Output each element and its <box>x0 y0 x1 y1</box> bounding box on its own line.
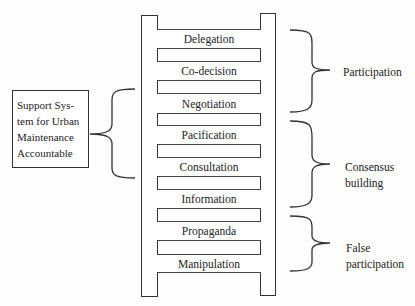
support-system-line-2: tem for Urban <box>17 113 88 129</box>
brace-consensus-building <box>290 121 330 207</box>
brace-false-participation <box>290 216 330 271</box>
brace-support-system <box>90 89 135 178</box>
group-label-participation: Participation <box>343 64 402 80</box>
support-system-line-1: Support Sys- <box>17 97 88 113</box>
support-system-box: Support Sys- tem for Urban Maintenance A… <box>12 90 89 168</box>
group-label-consensus-building: Consensus building <box>345 159 394 191</box>
support-system-line-3: Maintenance <box>17 129 88 145</box>
brace-participation <box>290 30 330 112</box>
group-label-false-participation: False participation <box>346 240 404 272</box>
support-system-line-4: Accountable <box>17 145 88 161</box>
